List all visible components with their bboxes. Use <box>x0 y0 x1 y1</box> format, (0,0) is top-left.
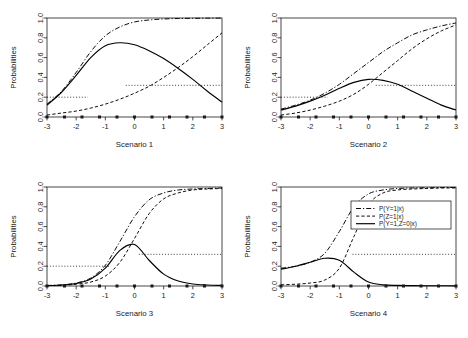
data-point-marker <box>221 285 224 288</box>
data-point-marker <box>133 116 136 119</box>
data-point-marker <box>168 116 171 119</box>
x-axis-title: Scenario 3 <box>116 309 153 318</box>
y-axis-title: Probabilities <box>9 215 18 258</box>
y-tick-label: 0.0 <box>270 281 279 291</box>
series-line <box>47 43 222 105</box>
panel-scenario-1: 0.00.20.40.60.81.0-3-2-10123Probabilitie… <box>0 0 234 169</box>
x-axis-title: Scenario 2 <box>350 140 387 149</box>
y-tick-label: 0.2 <box>270 261 279 271</box>
series-line <box>47 188 222 286</box>
panel-scenario-3: 0.00.20.40.60.81.0-3-2-10123Probabilitie… <box>0 169 234 338</box>
data-point-marker <box>455 285 458 288</box>
data-point-marker <box>350 285 353 288</box>
y-tick-label: 0.8 <box>36 202 45 212</box>
data-point-marker <box>81 285 84 288</box>
y-tick-label: 0.6 <box>270 221 279 231</box>
x-tick-label: 0 <box>132 291 136 300</box>
data-point-marker <box>297 285 300 288</box>
y-tick-label: 0.0 <box>36 281 45 291</box>
figure-container: 0.00.20.40.60.81.0-3-2-10123Probabilitie… <box>0 0 468 338</box>
x-tick-label: 1 <box>396 291 400 300</box>
series-line <box>281 258 456 286</box>
series-line <box>47 18 222 104</box>
data-point-marker <box>437 116 440 119</box>
data-point-marker <box>203 285 206 288</box>
data-point-marker <box>98 285 101 288</box>
data-point-marker <box>168 285 171 288</box>
y-axis-title: Probabilities <box>9 46 18 89</box>
x-tick-label: -2 <box>307 122 314 131</box>
y-tick-label: 1.0 <box>36 13 45 23</box>
series-line <box>47 188 222 285</box>
y-tick-label: 0.6 <box>270 52 279 62</box>
data-point-marker <box>402 285 405 288</box>
plot-frame <box>47 187 222 286</box>
x-tick-label: 3 <box>220 291 224 300</box>
x-tick-label: -1 <box>102 122 109 131</box>
data-point-marker <box>332 285 335 288</box>
x-tick-label: 0 <box>132 122 136 131</box>
data-point-marker <box>151 285 154 288</box>
data-point-marker <box>203 116 206 119</box>
x-tick-label: -2 <box>73 122 80 131</box>
data-point-marker <box>186 116 189 119</box>
plot-frame <box>47 18 222 117</box>
y-tick-label: 0.2 <box>36 92 45 102</box>
data-point-marker <box>63 285 66 288</box>
x-axis-title: Scenario 1 <box>116 140 153 149</box>
data-point-marker <box>186 285 189 288</box>
panel-scenario-4: 0.00.20.40.60.81.0-3-2-10123Probabilitie… <box>234 169 468 338</box>
y-tick-label: 1.0 <box>270 182 279 192</box>
data-point-marker <box>455 116 458 119</box>
data-point-marker <box>63 116 66 119</box>
y-tick-label: 0.0 <box>270 112 279 122</box>
series-line <box>281 23 456 109</box>
data-point-marker <box>315 285 318 288</box>
y-tick-label: 0.2 <box>270 92 279 102</box>
x-tick-label: 0 <box>366 291 370 300</box>
y-tick-label: 1.0 <box>270 13 279 23</box>
x-tick-label: 0 <box>366 122 370 131</box>
x-tick-label: -1 <box>336 291 343 300</box>
data-point-marker <box>133 285 136 288</box>
y-tick-label: 0.8 <box>270 202 279 212</box>
data-point-marker <box>367 116 370 119</box>
data-point-marker <box>98 116 101 119</box>
x-tick-label: 2 <box>425 291 429 300</box>
data-point-marker <box>420 285 423 288</box>
y-tick-label: 0.2 <box>36 261 45 271</box>
x-tick-label: 2 <box>425 122 429 131</box>
x-tick-label: -3 <box>278 291 285 300</box>
data-point-marker <box>280 285 283 288</box>
x-tick-label: 3 <box>454 122 458 131</box>
data-point-marker <box>151 116 154 119</box>
data-point-marker <box>367 285 370 288</box>
y-tick-label: 0.4 <box>270 241 279 251</box>
y-tick-label: 0.8 <box>270 33 279 43</box>
y-axis-title: Probabilities <box>243 46 252 89</box>
data-point-marker <box>280 116 283 119</box>
y-tick-label: 0.6 <box>36 221 45 231</box>
y-axis-title: Probabilities <box>243 215 252 258</box>
data-point-marker <box>221 116 224 119</box>
y-tick-label: 0.4 <box>36 72 45 82</box>
data-point-marker <box>402 116 405 119</box>
y-tick-label: 0.4 <box>270 72 279 82</box>
data-point-marker <box>332 116 335 119</box>
data-point-marker <box>315 116 318 119</box>
series-line <box>281 25 456 115</box>
x-tick-label: -3 <box>44 291 51 300</box>
data-point-marker <box>350 116 353 119</box>
x-tick-label: 3 <box>220 122 224 131</box>
y-tick-label: 0.8 <box>36 33 45 43</box>
x-tick-label: -2 <box>307 291 314 300</box>
y-tick-label: 0.6 <box>36 52 45 62</box>
x-tick-label: -3 <box>278 122 285 131</box>
x-tick-label: 2 <box>191 122 195 131</box>
x-tick-label: -2 <box>73 291 80 300</box>
data-point-marker <box>46 116 49 119</box>
legend-label-3: P(Y=1,Z=0|x) <box>379 220 417 228</box>
data-point-marker <box>297 116 300 119</box>
data-point-marker <box>116 285 119 288</box>
data-point-marker <box>81 116 84 119</box>
